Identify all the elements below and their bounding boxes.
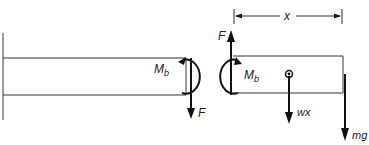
force-up-arrow <box>227 30 235 95</box>
force-up-label: F <box>218 29 226 43</box>
load-mg-arrow <box>341 74 349 141</box>
load-mg-label: mg <box>352 129 368 141</box>
force-down-arrow <box>187 58 195 119</box>
weight-wx-arrow <box>285 76 293 124</box>
moment-left-label: Mb <box>154 62 169 78</box>
free-body-diagram: Mb F Mb F x wx <box>0 0 369 145</box>
force-down-label: F <box>198 106 206 120</box>
dimension-x-label: x <box>283 9 291 23</box>
moment-left-icon <box>178 57 200 94</box>
moment-right-label: Mb <box>244 68 259 84</box>
weight-wx-label: wx <box>297 106 311 118</box>
